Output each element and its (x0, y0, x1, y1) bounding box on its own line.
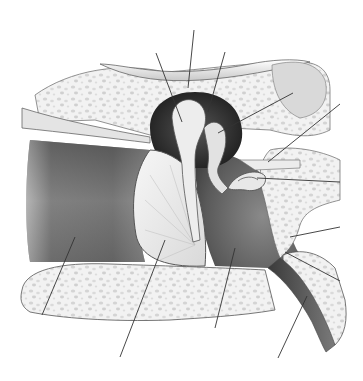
middle-ear-diagram (0, 0, 363, 381)
lower-bone (21, 264, 275, 321)
leader-line-9 (278, 296, 307, 358)
diagram-canvas (0, 0, 363, 381)
